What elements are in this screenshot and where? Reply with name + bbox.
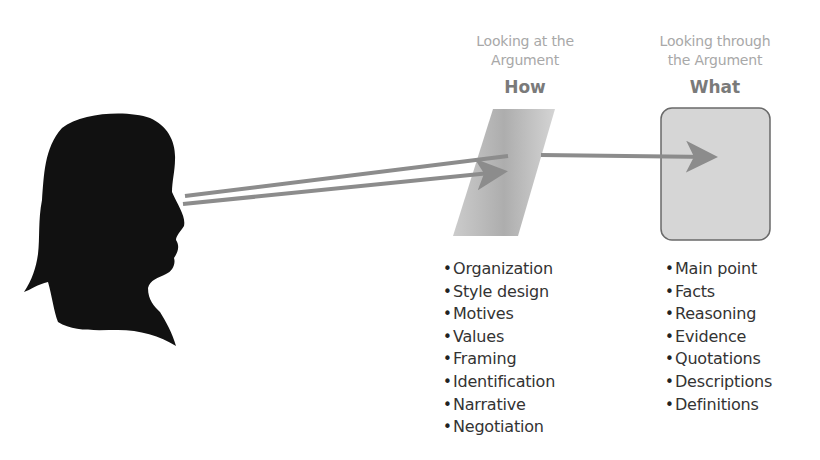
person-silhouette-icon	[24, 113, 184, 346]
how-list-item: Motives	[443, 303, 555, 326]
how-caption: Looking at the Argument	[455, 32, 595, 70]
what-list: Main point Facts Reasoning Evidence Quot…	[665, 258, 772, 416]
what-list-item: Evidence	[665, 326, 772, 349]
how-caption-line1: Looking at the	[455, 32, 595, 51]
what-heading: What	[640, 77, 790, 97]
how-list-item: Identification	[443, 371, 555, 394]
what-list-item: Main point	[665, 258, 772, 281]
what-list-item: Facts	[665, 281, 772, 304]
how-list: Organization Style design Motives Values…	[443, 258, 555, 439]
what-caption: Looking through the Argument	[640, 32, 790, 70]
how-list-item: Negotiation	[443, 416, 555, 439]
what-list-item: Quotations	[665, 348, 772, 371]
how-list-item: Values	[443, 326, 555, 349]
glass-pane-icon	[453, 109, 555, 236]
how-list-item: Organization	[443, 258, 555, 281]
what-caption-line2: the Argument	[640, 51, 790, 70]
how-caption-line2: Argument	[455, 51, 595, 70]
what-list-item: Reasoning	[665, 303, 772, 326]
what-list-item: Descriptions	[665, 371, 772, 394]
content-box-icon	[661, 108, 770, 240]
what-caption-line1: Looking through	[640, 32, 790, 51]
how-heading: How	[455, 77, 595, 97]
how-list-item: Style design	[443, 281, 555, 304]
how-list-item: Framing	[443, 348, 555, 371]
how-list-item: Narrative	[443, 394, 555, 417]
what-list-item: Definitions	[665, 394, 772, 417]
through-arrow	[541, 155, 710, 157]
